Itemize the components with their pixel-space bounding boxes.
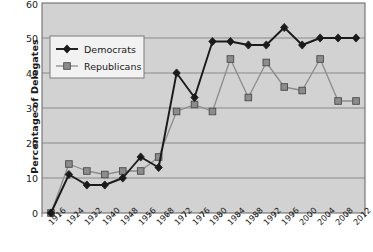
y-tick-60: 60 xyxy=(16,0,38,10)
legend-label: Republicans xyxy=(84,61,141,72)
y-axis-title: Percentage of Delegates xyxy=(29,17,40,197)
chart-legend: DemocratsRepublicans xyxy=(50,36,144,78)
legend-label: Democrats xyxy=(84,44,136,55)
y-tick-0: 0 xyxy=(16,209,38,219)
